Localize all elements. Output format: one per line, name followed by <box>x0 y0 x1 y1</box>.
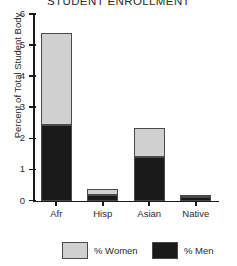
bar-segment-women <box>41 33 72 125</box>
plot-area: 0123456AfrHispAsianNative <box>33 14 219 202</box>
y-axis-tick: 5 <box>29 44 36 46</box>
y-axis-tick-label: 4 <box>20 71 25 81</box>
x-axis-line <box>33 201 219 203</box>
y-axis-tick-label: 2 <box>20 134 25 144</box>
bar-hisp <box>87 189 118 201</box>
y-axis-tick: 1 <box>29 169 36 171</box>
bar-segment-men <box>180 197 211 201</box>
y-axis-tick-label: 1 <box>20 165 25 175</box>
bar-native <box>180 196 211 201</box>
y-axis-tick-label: 0 <box>20 196 25 206</box>
bar-segment-men <box>87 195 118 201</box>
bar-asian <box>134 128 165 200</box>
x-axis-tick <box>195 200 197 206</box>
y-axis-tick: 3 <box>29 106 36 108</box>
y-axis-tick: 6 <box>29 13 36 15</box>
y-axis-tick: 0 <box>29 200 36 202</box>
legend-label: % Men <box>184 245 214 256</box>
x-axis-label-afr: Afr <box>50 208 62 219</box>
legend-label: % Women <box>94 245 138 256</box>
x-axis-label-asian: Asian <box>137 208 161 219</box>
legend-entry: % Men <box>152 242 214 259</box>
chart-title: STUDENT ENROLLMENT <box>0 0 237 7</box>
legend-swatch <box>62 242 88 259</box>
y-axis-tick: 2 <box>29 138 36 140</box>
x-axis-label-hisp: Hisp <box>93 208 112 219</box>
x-axis-tick <box>102 200 104 206</box>
x-axis-tick <box>148 200 150 206</box>
x-axis-label-native: Native <box>182 208 209 219</box>
legend-swatch <box>152 242 178 259</box>
bar-segment-men <box>134 157 165 201</box>
y-axis-tick-label: 5 <box>20 40 25 50</box>
bar-segment-men <box>41 125 72 201</box>
y-axis-tick-label: 6 <box>20 9 25 19</box>
bar-segment-women <box>134 128 165 157</box>
chart-figure: STUDENT ENROLLMENT Percent of Total Stud… <box>0 0 237 266</box>
bar-segment-women <box>180 195 211 197</box>
bar-afr <box>41 33 72 201</box>
x-axis-tick <box>55 200 57 206</box>
bar-segment-women <box>87 189 118 195</box>
chart-legend: % Women% Men <box>0 238 237 264</box>
y-axis-tick: 4 <box>29 75 36 77</box>
legend-entry: % Women <box>62 242 138 259</box>
y-axis-tick-label: 3 <box>20 103 25 113</box>
